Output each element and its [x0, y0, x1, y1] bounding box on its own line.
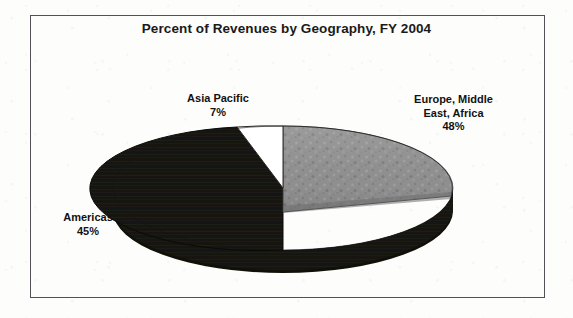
pie-label-americas-value: 45%: [36, 225, 140, 239]
pie-label-emea-name-line2: East, Africa: [386, 107, 521, 121]
pie-label-emea-value: 48%: [386, 120, 521, 134]
pie-label-asia-pacific-value: 7%: [157, 106, 279, 120]
pie-chart-graphic: [0, 0, 573, 318]
pie-label-emea-name-line1: Europe, Middle: [386, 93, 521, 107]
pie-label-asia-pacific: Asia Pacific 7%: [157, 92, 279, 119]
figure-page: Percent of Revenues by Geography, FY 200…: [0, 0, 573, 318]
pie-label-americas: Americas 45%: [36, 211, 140, 238]
pie-label-asia-pacific-name: Asia Pacific: [157, 92, 279, 106]
pie-label-americas-name: Americas: [36, 211, 140, 225]
pie-label-emea: Europe, Middle East, Africa 48%: [386, 93, 521, 134]
